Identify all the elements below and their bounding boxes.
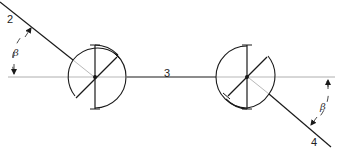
label-angle-beta-right: β xyxy=(319,101,326,112)
label-link-4: 4 xyxy=(311,136,317,148)
label-angle-beta-left: β xyxy=(12,47,19,58)
label-link-3: 3 xyxy=(164,67,170,79)
linkage-diagram: 2 3 4 β β xyxy=(0,0,339,152)
label-link-2: 2 xyxy=(7,13,13,25)
link-4 xyxy=(249,78,331,147)
